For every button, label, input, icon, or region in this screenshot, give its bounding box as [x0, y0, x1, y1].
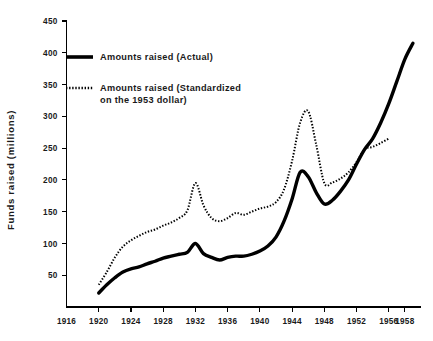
y-axis-title: Funds raised (millions)	[5, 110, 16, 230]
y-tick-label: 50	[48, 271, 58, 280]
funds-raised-line-chart: 50100150200250300350400450 1916192019241…	[0, 0, 433, 341]
x-tick-label: 1958	[395, 317, 414, 326]
x-tick-label: 1936	[218, 317, 237, 326]
x-tick-label: 1952	[347, 317, 366, 326]
y-tick-label: 200	[43, 176, 58, 185]
y-tick-label: 450	[43, 17, 58, 26]
x-tick-label: 1924	[121, 317, 140, 326]
chart-figure: 50100150200250300350400450 1916192019241…	[0, 0, 433, 341]
legend-label-actual: Amounts raised (Actual)	[100, 52, 213, 62]
y-tick-label: 300	[43, 112, 58, 121]
x-tick-label: 1932	[186, 317, 205, 326]
y-tick-label: 250	[43, 144, 58, 153]
y-tick-label: 100	[43, 240, 58, 249]
x-tick-label: 1916	[57, 317, 76, 326]
x-tick-label: 1948	[315, 317, 334, 326]
chart-background	[0, 0, 433, 341]
legend-label-standardized-line2: on the 1953 dollar)	[100, 95, 187, 105]
y-tick-label: 150	[43, 208, 58, 217]
x-tick-label: 1928	[154, 317, 173, 326]
legend-label-standardized-line1: Amounts raised (Standardized	[100, 83, 241, 93]
y-tick-label: 350	[43, 81, 58, 90]
y-tick-label: 400	[43, 49, 58, 58]
x-tick-label: 1940	[250, 317, 269, 326]
x-tick-label: 1920	[89, 317, 108, 326]
x-tick-label: 1944	[282, 317, 301, 326]
